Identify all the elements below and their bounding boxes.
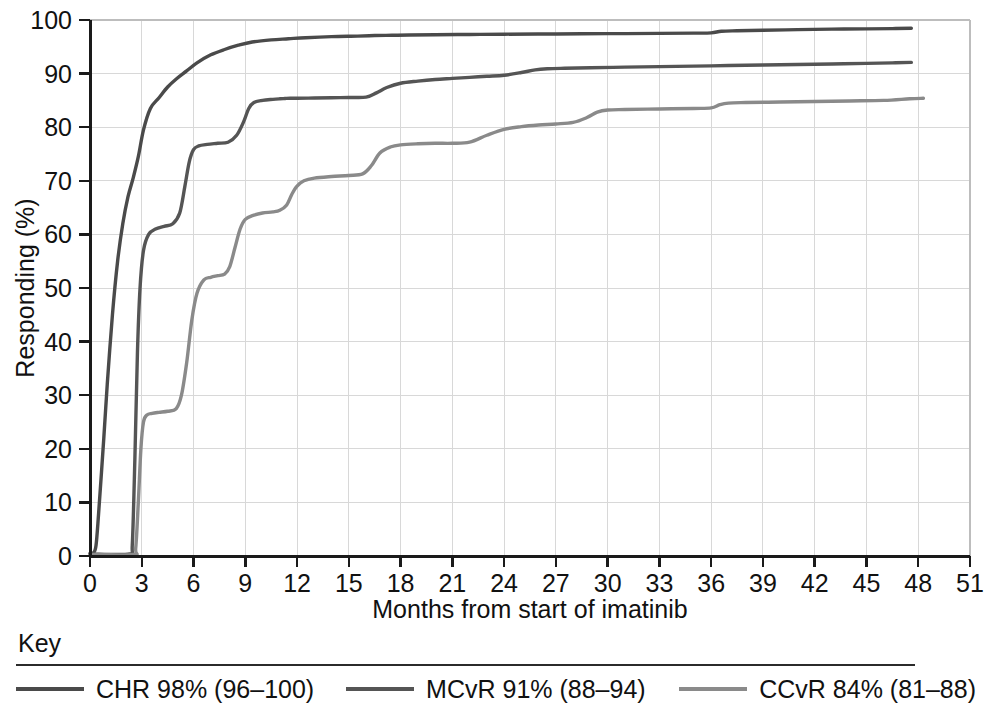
y-tick-label: 10 [44,488,72,516]
y-tick-label: 50 [44,274,72,302]
series-line-ccvr [90,98,923,555]
x-tick-label: 39 [749,569,777,597]
response-rate-line-chart: 0369121518212427303336394245485101020304… [0,0,987,640]
legend-item-ccvr[interactable]: CCvR 84% (81–88) [679,675,976,703]
x-tick-label: 9 [238,569,252,597]
y-tick-label: 70 [44,167,72,195]
legend-item-mcvr[interactable]: MCvR 91% (88–94) [346,675,646,703]
legend-swatch-mcvr [346,687,414,691]
legend-swatch-chr [16,687,84,691]
x-tick-label: 33 [646,569,674,597]
y-tick-label: 60 [44,220,72,248]
legend-item-chr[interactable]: CHR 98% (96–100) [16,675,314,703]
x-tick-label: 45 [853,569,881,597]
y-tick-label: 0 [58,542,72,570]
y-tick-label: 40 [44,328,72,356]
series-line-mcvr [90,62,911,555]
legend-heading: Key [18,628,61,658]
legend-label-chr: CHR 98% (96–100) [96,675,314,703]
series-line-chr [90,28,911,553]
x-tick-label: 15 [335,569,363,597]
x-tick-label: 27 [542,569,570,597]
x-tick-label: 42 [801,569,829,597]
legend-label-ccvr: CCvR 84% (81–88) [759,675,976,703]
x-tick-label: 24 [490,569,518,597]
x-axis-title: Months from start of imatinib [372,595,687,623]
y-tick-label: 30 [44,381,72,409]
legend-items: CHR 98% (96–100) MCvR 91% (88–94) CCvR 8… [16,672,976,706]
series-layer [90,28,923,555]
tick-label-layer: 0369121518212427303336394245485101020304… [30,6,984,597]
x-tick-label: 21 [438,569,466,597]
legend-divider [16,664,915,666]
x-tick-label: 48 [904,569,932,597]
y-tick-label: 100 [30,6,72,34]
x-tick-label: 18 [387,569,415,597]
legend-key-block: Key CHR 98% (96–100) MCvR 91% (88–94) CC… [0,628,987,698]
x-tick-label: 0 [83,569,97,597]
x-tick-label: 12 [283,569,311,597]
y-tick-label: 80 [44,113,72,141]
y-tick-label: 20 [44,435,72,463]
y-tick-label: 90 [44,60,72,88]
x-tick-label: 30 [594,569,622,597]
x-tick-label: 6 [187,569,201,597]
legend-swatch-ccvr [679,687,747,691]
legend-label-mcvr: MCvR 91% (88–94) [426,675,646,703]
x-tick-label: 36 [697,569,725,597]
y-axis-title: Responding (%) [11,198,39,377]
x-tick-label: 51 [956,569,984,597]
x-tick-label: 3 [135,569,149,597]
